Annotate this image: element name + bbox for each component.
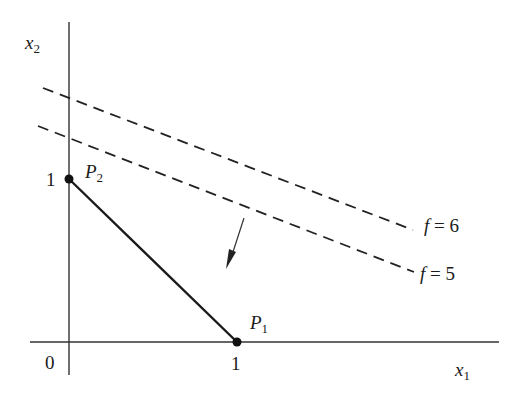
level-line-f5-label: f = 5: [420, 264, 455, 283]
point-p2: [65, 175, 74, 184]
x-tick-label: 1: [231, 354, 241, 373]
point-p1: [233, 338, 242, 347]
y-tick-label: 1: [46, 170, 56, 189]
level-line-f5: [38, 126, 414, 272]
feasible-segment: [69, 179, 237, 342]
direction-arrow-shaft: [232, 218, 244, 255]
level-line-f6-label: f = 6: [424, 216, 459, 235]
diagram-canvas: [0, 0, 527, 402]
point-p1-label: P1: [250, 313, 268, 335]
point-p2-label: P2: [85, 162, 103, 184]
origin-label: 0: [45, 353, 55, 372]
direction-arrow-head: [226, 249, 236, 269]
x-axis-label: x1: [455, 360, 470, 382]
y-axis-label: x2: [25, 33, 40, 55]
